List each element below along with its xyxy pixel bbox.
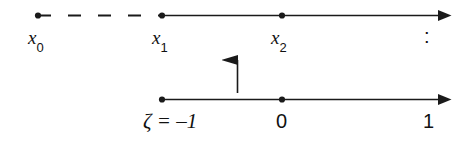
axis-label-x0-subscript: 0	[36, 40, 43, 55]
axis-label-zero: 0	[276, 111, 287, 131]
point-dot-zeta-minus-one	[159, 96, 165, 102]
diagram-vector-layer	[0, 0, 471, 144]
axis-label-continuation-colon: :	[424, 26, 430, 46]
point-dot-x2	[279, 12, 285, 18]
axis-label-x1-subscript: 1	[160, 40, 167, 55]
point-dot-x0	[35, 12, 41, 18]
axis-label-x2: x2	[271, 28, 287, 50]
axis-label-one: 1	[423, 111, 434, 131]
figure-canvas: x0 x1 x2 : ζ = –1 0 1	[0, 0, 471, 144]
point-dot-zero	[279, 96, 285, 102]
point-dot-x1	[159, 12, 165, 18]
axis-label-x2-subscript: 2	[279, 40, 286, 55]
axis-label-x0: x0	[28, 28, 44, 50]
axis-label-x1: x1	[152, 28, 168, 50]
axis-label-zeta-minus-one: ζ = –1	[143, 111, 197, 132]
